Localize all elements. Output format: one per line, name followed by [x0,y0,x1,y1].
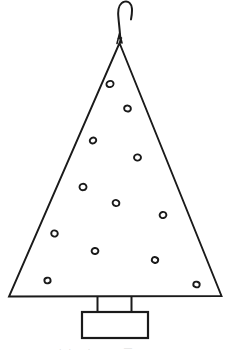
christmas-tree-figure: . . . — [0,0,227,352]
tree-drawing-canvas [0,0,227,352]
rectangular-base-stand [82,312,148,338]
stand-rectangle [82,312,148,338]
caption-strip: . . . — [0,344,227,352]
clipped-caption-text: . . . — [52,344,192,352]
